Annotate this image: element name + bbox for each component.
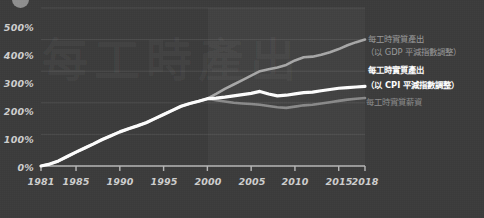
annotation-gdp-line1: 每工時實質產出 (368, 33, 424, 47)
annotation-cpi-line1: 每工時實質產出 (368, 64, 424, 78)
annotation-gdp-line2: （以 GDP 平減指數調整） (366, 46, 461, 60)
annotation-wage-line1: 每工時實質薪資 (366, 96, 422, 110)
gridlines (41, 8, 365, 134)
chart-container: 每工時產出 500% 400% 300% 200% 100% 0% 1981 1… (0, 0, 484, 218)
annotation-cpi-line2: （以 CPI 平減指數調整） (366, 79, 459, 93)
series-line-cpi (41, 86, 365, 166)
axis-lines (41, 166, 365, 171)
series-line-wage (41, 98, 365, 166)
